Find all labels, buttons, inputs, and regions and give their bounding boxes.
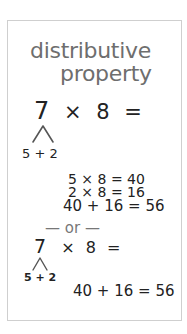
example-2-equation: 7 × 8 =: [34, 235, 120, 257]
example-2-left-operand: 7: [34, 235, 46, 257]
title-line-2: property: [60, 61, 152, 86]
example-2-operator: ×: [61, 238, 74, 257]
example-1-operator: ×: [64, 100, 82, 124]
example-2-branch-icon: [29, 256, 51, 272]
distributive-property-card: distributive property 7 × 8 = 5 + 2 5 × …: [7, 20, 182, 321]
example-1-equals: =: [124, 100, 142, 124]
example-2-split: 5 + 2: [24, 271, 56, 284]
example-2-right-operand: 8: [86, 238, 96, 257]
example-1-equation: 7 × 8 =: [34, 97, 142, 125]
example-2-result: 40 + 16 = 56: [73, 282, 174, 300]
example-1-right-operand: 8: [96, 100, 109, 124]
example-1-branch-icon: [28, 124, 58, 146]
example-2-equals: =: [107, 238, 120, 257]
title-line-1: distributive: [30, 38, 151, 63]
example-1-left-operand: 7: [34, 97, 49, 125]
example-1-split: 5 + 2: [22, 146, 58, 161]
example-1-step-3: 40 + 16 = 56: [63, 197, 164, 215]
